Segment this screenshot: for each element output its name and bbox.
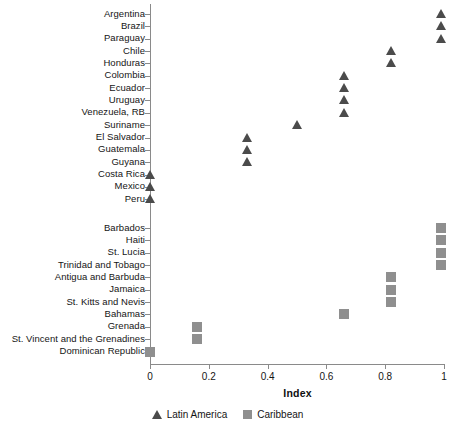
plot-area: ArgentinaBrazilParaguayChileHondurasColo… <box>0 0 455 431</box>
x-axis-tick <box>268 364 269 369</box>
data-point-triangle <box>339 108 349 117</box>
data-point-square <box>436 235 446 245</box>
y-axis-label: Costa Rica <box>98 169 145 179</box>
data-point-square <box>386 297 396 307</box>
legend: Latin America Caribbean <box>0 409 455 420</box>
data-point-triangle <box>145 194 155 203</box>
y-axis-tick <box>145 63 150 64</box>
data-point-square <box>386 272 396 282</box>
data-point-triangle <box>339 83 349 92</box>
x-axis-line <box>150 364 445 365</box>
data-point-triangle <box>436 9 446 18</box>
x-axis-tick <box>444 364 445 369</box>
x-axis-tick-label: 0.2 <box>189 371 229 382</box>
y-axis-tick <box>145 162 150 163</box>
triangle-marker-icon <box>152 410 162 419</box>
data-point-square <box>436 248 446 258</box>
data-point-square <box>192 322 202 332</box>
x-axis-tick <box>150 364 151 369</box>
y-axis-tick <box>145 14 150 15</box>
data-point-triangle <box>242 145 252 154</box>
data-point-triangle <box>386 46 396 55</box>
y-axis-label: Peru <box>125 194 145 204</box>
legend-entry-caribbean: Caribbean <box>243 409 303 420</box>
y-axis-label: Venezuela, RB <box>82 107 146 117</box>
y-axis-label: Colombia <box>104 70 145 80</box>
x-axis-tick-label: 0 <box>130 371 170 382</box>
data-point-triangle <box>292 120 302 129</box>
y-axis-label: Mexico <box>115 181 145 191</box>
x-axis-tick <box>209 364 210 369</box>
y-axis-tick <box>145 88 150 89</box>
y-axis-tick <box>145 253 150 254</box>
y-axis-tick <box>145 265 150 266</box>
x-axis-tick <box>385 364 386 369</box>
y-axis-label: Barbados <box>104 223 145 233</box>
data-point-square <box>192 334 202 344</box>
y-axis-tick <box>145 327 150 328</box>
y-axis-tick <box>145 76 150 77</box>
data-point-square <box>339 309 349 319</box>
y-axis-label: El Salvador <box>96 132 145 142</box>
y-axis-label: Paraguay <box>104 33 145 43</box>
data-point-triangle <box>436 21 446 30</box>
y-axis-tick <box>145 240 150 241</box>
scatter-plot-figure: ArgentinaBrazilParaguayChileHondurasColo… <box>0 0 455 431</box>
y-axis-label: Honduras <box>103 58 145 68</box>
y-axis-tick <box>145 150 150 151</box>
y-axis-label: St. Vincent and the Grenadines <box>12 334 145 344</box>
y-axis-tick <box>145 125 150 126</box>
y-axis-tick <box>145 26 150 27</box>
data-point-square <box>386 285 396 295</box>
data-point-triangle <box>339 95 349 104</box>
x-axis-tick-label: 0.6 <box>306 371 346 382</box>
x-axis-tick-label: 0.8 <box>365 371 405 382</box>
y-axis-label: Bahamas <box>105 309 145 319</box>
data-point-triangle <box>145 170 155 179</box>
y-axis-tick <box>145 302 150 303</box>
data-point-triangle <box>386 58 396 67</box>
y-axis-tick <box>145 290 150 291</box>
data-point-square <box>436 223 446 233</box>
y-axis-label: Chile <box>123 46 145 56</box>
y-axis-tick <box>145 51 150 52</box>
y-axis-label: Guatemala <box>98 144 145 154</box>
y-axis-tick <box>145 138 150 139</box>
y-axis-tick <box>145 39 150 40</box>
y-axis-tick <box>145 314 150 315</box>
legend-label-latin-america: Latin America <box>167 409 228 420</box>
data-point-triangle <box>339 71 349 80</box>
y-axis-tick <box>145 228 150 229</box>
y-axis-label: Dominican Republic <box>60 346 145 356</box>
y-axis-tick <box>145 277 150 278</box>
y-axis-tick <box>145 100 150 101</box>
y-axis-label: St. Kitts and Nevis <box>66 297 145 307</box>
legend-entry-latin-america: Latin America <box>152 409 228 420</box>
y-axis-label: Jamaica <box>109 284 145 294</box>
x-axis-tick <box>326 364 327 369</box>
y-axis-tick <box>145 339 150 340</box>
y-axis-label: Trinidad and Tobago <box>58 260 145 270</box>
data-point-square <box>145 347 155 357</box>
data-point-triangle <box>436 34 446 43</box>
data-point-triangle <box>145 182 155 191</box>
y-axis-label: Brazil <box>121 21 145 31</box>
y-axis-label: Antigua and Barbuda <box>55 272 145 282</box>
data-point-triangle <box>242 133 252 142</box>
y-axis-label: Haiti <box>126 235 145 245</box>
x-axis-tick-label: 0.4 <box>248 371 288 382</box>
legend-label-caribbean: Caribbean <box>257 409 303 420</box>
y-axis-tick <box>145 113 150 114</box>
y-axis-label: Ecuador <box>109 83 145 93</box>
data-point-triangle <box>242 157 252 166</box>
x-axis-tick-label: 1 <box>424 371 455 382</box>
y-axis-label: Grenada <box>108 321 145 331</box>
y-axis-label: Guyana <box>111 157 145 167</box>
y-axis-label: Argentina <box>104 9 145 19</box>
y-axis-label: Suriname <box>104 120 145 130</box>
y-axis-label: Uruguay <box>109 95 145 105</box>
data-point-square <box>436 260 446 270</box>
square-marker-icon <box>243 410 252 419</box>
x-axis-title: Index <box>150 387 445 399</box>
y-axis-label: St. Lucia <box>108 247 145 257</box>
